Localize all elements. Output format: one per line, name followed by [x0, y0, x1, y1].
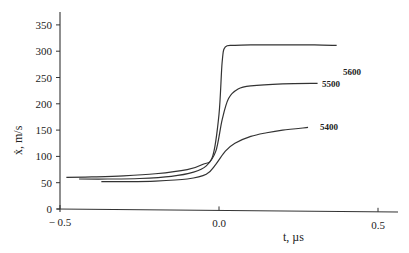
series-label-5400: 5400 [320, 122, 339, 132]
x-tick-label: 0.0 [212, 217, 226, 229]
y-tick-label: 200 [36, 98, 53, 110]
series-label-5500: 5500 [322, 79, 341, 89]
y-axis-title: ẋ, m/s [11, 125, 25, 155]
x-tick-label: − 0.5 [49, 216, 72, 228]
curve-5400 [101, 127, 308, 181]
curves [66, 45, 336, 182]
line-chart: 050100150200250300350 − 0.50.00.5 ẋ, m/s… [0, 0, 409, 253]
x-tick-label: 0.5 [371, 219, 385, 231]
curve-5600 [66, 45, 336, 178]
y-tick-label: 250 [36, 72, 53, 84]
y-tick-label: 0 [47, 203, 53, 215]
curve-5500 [79, 83, 317, 179]
y-tick-label: 150 [36, 124, 53, 136]
y-tick-label: 50 [41, 177, 53, 189]
y-axis-ticks: 050100150200250300350 [36, 19, 61, 215]
x-axis-title: t, µs [283, 230, 304, 244]
y-tick-label: 300 [36, 45, 53, 57]
y-tick-label: 100 [36, 150, 53, 162]
x-axis [57, 209, 398, 212]
series-label-5600: 5600 [343, 67, 362, 77]
y-tick-label: 350 [36, 19, 53, 31]
